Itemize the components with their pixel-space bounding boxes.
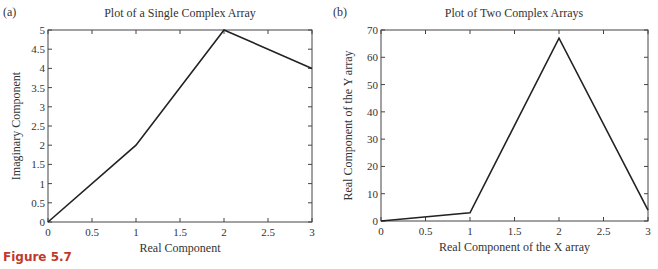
chart-a-ytick-label: 2 [40, 139, 46, 151]
chart-b-ytick-label: 20 [367, 160, 379, 172]
chart-a-ytick-label: 1.5 [31, 158, 45, 170]
chart-a-xtick-label: 0.5 [85, 226, 99, 238]
chart-a-xtick-label: 1 [133, 226, 139, 238]
chart-a-ytick-label: 3.5 [31, 82, 45, 94]
chart-b-xtick-label: 0.5 [419, 225, 433, 237]
chart-a-xtick-label: 1.5 [173, 226, 187, 238]
chart-b-series-line [381, 38, 648, 221]
chart-a-ytick-label: 5 [40, 24, 46, 36]
chart-a-xtick-label: 3 [309, 226, 315, 238]
chart-b-xtick-label: 1 [467, 225, 473, 237]
chart-a-ytick-label: 0.5 [31, 197, 45, 209]
chart-b-ytick-label: 10 [367, 188, 379, 200]
chart-b-xtick-label: 0 [378, 225, 384, 237]
chart-a-xlabel: Real Component [140, 241, 222, 255]
chart-a-ytick-label: 3 [40, 101, 46, 113]
chart-b-ytick-label: 0 [373, 215, 379, 227]
chart-a-ytick-label: 2.5 [31, 120, 45, 132]
chart-a-xtick-label: 2 [221, 226, 227, 238]
figure-caption: Figure 5.7 [3, 250, 72, 264]
chart-b-panel-label: (b) [333, 5, 347, 19]
chart-b-ytick-label: 60 [367, 51, 379, 63]
figure-canvas: (a)Plot of a Single Complex Array00.511.… [0, 0, 658, 269]
chart-a-title: Plot of a Single Complex Array [104, 6, 256, 20]
chart-b-title: Plot of Two Complex Arrays [445, 6, 584, 20]
chart-a-axes-box [48, 30, 312, 222]
chart-b-ytick-label: 40 [367, 106, 379, 118]
chart-b-ytick-label: 50 [367, 79, 379, 91]
chart-b-xtick-label: 2.5 [597, 225, 611, 237]
chart-b-xlabel: Real Component of the X array [439, 240, 590, 254]
chart-a-xtick-label: 0 [45, 226, 51, 238]
chart-b-ytick-label: 70 [367, 24, 379, 36]
chart-a-ytick-label: 1 [40, 178, 46, 190]
chart-a-ylabel: Imaginary Component [9, 71, 23, 180]
chart-a-series-line [48, 30, 312, 222]
chart-b-ytick-label: 30 [367, 133, 379, 145]
chart-b-xtick-label: 3 [645, 225, 651, 237]
chart-a-ytick-label: 4 [40, 62, 46, 74]
chart-a-panel-label: (a) [3, 5, 16, 19]
chart-b-xtick-label: 2 [556, 225, 562, 237]
chart-a-ytick-label: 0 [40, 216, 46, 228]
chart-a-ytick-label: 4.5 [31, 43, 45, 55]
chart-b-ylabel: Real Component of the Y array [341, 50, 355, 200]
chart-a-xtick-label: 2.5 [261, 226, 275, 238]
chart-b-xtick-label: 1.5 [508, 225, 522, 237]
